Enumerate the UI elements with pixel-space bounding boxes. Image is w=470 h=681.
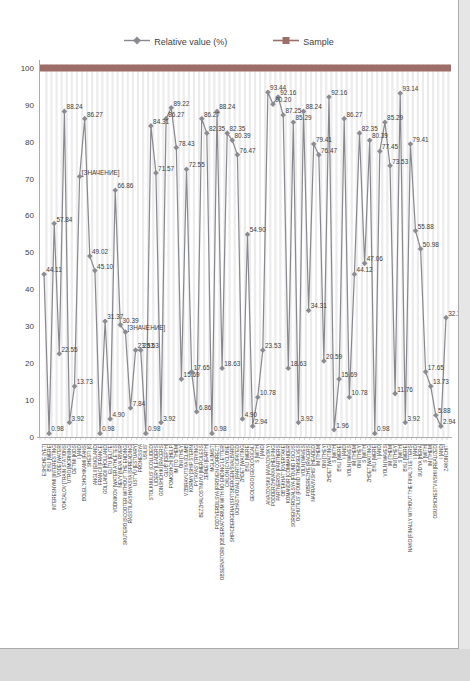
- svg-text:13.73: 13.73: [433, 378, 449, 385]
- svg-text:88.24: 88.24: [67, 103, 83, 110]
- combo-chart: 010203040506070809010044.110.9857.8422.5…: [0, 0, 458, 648]
- svg-text:[ЗНАЧЕНИЕ]: [ЗНАЧЕНИЕ]: [128, 324, 166, 332]
- svg-text:15.69: 15.69: [184, 371, 200, 378]
- page-background-right: [459, 0, 470, 681]
- svg-text:92.16: 92.16: [331, 89, 347, 96]
- svg-text:92.16: 92.16: [280, 89, 296, 96]
- svg-text:100: 100: [21, 64, 35, 73]
- svg-text:86.27: 86.27: [168, 111, 184, 118]
- svg-text:32.35: 32.35: [448, 310, 458, 317]
- svg-text:77.45: 77.45: [382, 143, 398, 150]
- svg-text:15.69: 15.69: [341, 371, 357, 378]
- svg-text:23.53: 23.53: [265, 342, 281, 349]
- svg-text:2.94: 2.94: [255, 418, 268, 425]
- square-marker-icon: [273, 36, 299, 47]
- svg-text:ZAKONCHIT': ZAKONCHIT': [444, 444, 449, 472]
- svg-text:47.06: 47.06: [367, 255, 383, 262]
- svg-text:[ЗНАЧЕНИЕ]: [ЗНАЧЕНИЕ]: [82, 169, 120, 177]
- svg-text:0.98: 0.98: [148, 425, 161, 432]
- svg-text:17.65: 17.65: [428, 364, 444, 371]
- svg-text:4.90: 4.90: [245, 411, 258, 418]
- svg-text:60: 60: [25, 211, 34, 220]
- diamond-marker-icon: [124, 36, 150, 47]
- legend-item-sample[interactable]: Sample: [273, 36, 334, 47]
- svg-text:70: 70: [25, 175, 34, 184]
- svg-text:57.84: 57.84: [56, 216, 72, 223]
- svg-text:0.98: 0.98: [102, 425, 115, 432]
- svg-text:2.94: 2.94: [443, 418, 456, 425]
- legend-item-relative-value[interactable]: Relative value (%): [124, 36, 227, 47]
- svg-text:10: 10: [25, 396, 34, 405]
- svg-text:3.92: 3.92: [72, 415, 85, 422]
- chart-card: 010203040506070809010044.110.9857.8422.5…: [0, 0, 459, 649]
- svg-text:20: 20: [25, 359, 34, 368]
- svg-text:85.29: 85.29: [387, 114, 403, 121]
- svg-text:1.96: 1.96: [336, 422, 349, 429]
- svg-text:49.02: 49.02: [92, 248, 108, 255]
- legend-label-sample: Sample: [303, 37, 334, 47]
- svg-text:84.31: 84.31: [153, 118, 169, 125]
- svg-text:44.12: 44.12: [357, 266, 373, 273]
- svg-text:18.63: 18.63: [224, 360, 240, 367]
- svg-text:82.35: 82.35: [229, 125, 245, 132]
- svg-text:4.90: 4.90: [112, 411, 125, 418]
- svg-text:80.39: 80.39: [235, 132, 251, 139]
- svg-text:78.43: 78.43: [179, 140, 195, 147]
- svg-text:86.27: 86.27: [204, 111, 220, 118]
- svg-text:3.92: 3.92: [301, 415, 314, 422]
- svg-text:6.86: 6.86: [199, 404, 212, 411]
- svg-text:50.98: 50.98: [423, 241, 439, 248]
- svg-text:34.31: 34.31: [311, 302, 327, 309]
- svg-text:23.53: 23.53: [143, 342, 159, 349]
- svg-text:76.47: 76.47: [321, 147, 337, 154]
- svg-text:66.86: 66.86: [117, 182, 133, 189]
- svg-text:0: 0: [30, 433, 35, 442]
- x-tick-marks: [40, 438, 447, 441]
- svg-text:44.11: 44.11: [46, 266, 62, 273]
- svg-text:93.14: 93.14: [402, 85, 418, 92]
- chart-legend: Relative value (%) Sample: [0, 36, 458, 47]
- svg-text:54.90: 54.90: [250, 226, 266, 233]
- svg-text:3.92: 3.92: [163, 415, 176, 422]
- svg-text:17.65: 17.65: [194, 364, 210, 371]
- svg-text:13.73: 13.73: [77, 378, 93, 385]
- svg-text:30: 30: [25, 322, 34, 331]
- svg-text:22.55: 22.55: [62, 346, 78, 353]
- svg-text:85.29: 85.29: [296, 114, 312, 121]
- svg-text:7.84: 7.84: [133, 400, 146, 407]
- svg-text:0.98: 0.98: [51, 425, 64, 432]
- svg-text:80.39: 80.39: [372, 132, 388, 139]
- svg-text:0.98: 0.98: [214, 425, 227, 432]
- svg-text:88.24: 88.24: [306, 103, 322, 110]
- page-background-bottom: [0, 649, 470, 681]
- svg-text:45.10: 45.10: [97, 263, 113, 270]
- svg-text:87.25: 87.25: [285, 107, 301, 114]
- svg-text:79.41: 79.41: [316, 136, 332, 143]
- svg-text:30.39: 30.39: [123, 317, 139, 324]
- svg-text:10.78: 10.78: [352, 389, 368, 396]
- svg-text:80: 80: [25, 138, 34, 147]
- svg-text:3.92: 3.92: [408, 415, 421, 422]
- svg-text:20.59: 20.59: [326, 353, 342, 360]
- svg-text:11.76: 11.76: [397, 386, 413, 393]
- svg-text:0.98: 0.98: [377, 425, 390, 432]
- svg-text:82.35: 82.35: [362, 125, 378, 132]
- svg-text:86.27: 86.27: [87, 111, 103, 118]
- svg-text:40: 40: [25, 285, 34, 294]
- svg-text:55.88: 55.88: [418, 223, 434, 230]
- svg-text:5.88: 5.88: [438, 407, 451, 414]
- svg-text:31.37: 31.37: [107, 313, 123, 320]
- svg-text:71.57: 71.57: [158, 165, 174, 172]
- svg-text:90: 90: [25, 101, 34, 110]
- legend-label-relative-value: Relative value (%): [154, 37, 227, 47]
- x-axis-labels: ESHCHE [YET]BYLI [WERE]INTERESNYMI [INTE…: [42, 443, 449, 580]
- svg-text:76.47: 76.47: [240, 147, 256, 154]
- svg-text:NAKO [FINALLY WITHOUT THE FINA: NAKO [FINALLY WITHOUT THE FINAL 3 LETTER…: [408, 444, 413, 552]
- svg-text:72.55: 72.55: [189, 161, 205, 168]
- svg-text:86.27: 86.27: [346, 111, 362, 118]
- svg-text:90.20: 90.20: [275, 96, 291, 103]
- svg-text:73.53: 73.53: [392, 158, 408, 165]
- svg-text:50: 50: [25, 248, 34, 257]
- svg-text:82.35: 82.35: [209, 125, 225, 132]
- svg-text:89.22: 89.22: [173, 100, 189, 107]
